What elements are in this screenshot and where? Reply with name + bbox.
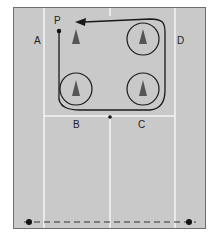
arrow-head-icon xyxy=(75,18,86,26)
cone-icon xyxy=(72,29,80,44)
player-path xyxy=(59,19,165,110)
label-c: C xyxy=(138,120,145,130)
cone-icon xyxy=(72,80,80,96)
label-b: B xyxy=(73,120,80,130)
player-start-dot xyxy=(57,29,61,33)
label-p: P xyxy=(54,16,61,26)
label-a: A xyxy=(34,36,41,46)
cone-icon xyxy=(139,29,147,44)
label-d: D xyxy=(177,36,184,46)
center-dot xyxy=(108,115,112,119)
cone-icon xyxy=(139,80,147,96)
baseline-dot-right xyxy=(186,219,192,225)
baseline-dot-left xyxy=(26,219,32,225)
